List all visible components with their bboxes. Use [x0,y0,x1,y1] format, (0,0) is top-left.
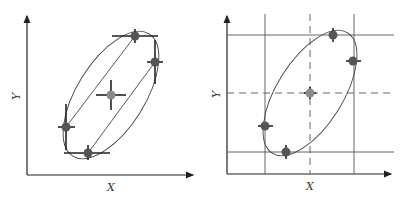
left-panel: X Y [10,16,193,194]
left-point-bottom [84,149,93,158]
right-point-left [261,122,270,131]
left-diagonal-right-bottom [88,62,155,153]
right-y-label: Y [210,89,223,98]
right-x-label: X [305,180,315,193]
left-point-left [62,123,71,132]
left-x-label: X [106,181,116,194]
right-point-bottom [282,148,291,157]
left-point-center [107,91,116,100]
diagram-canvas: X Y X Y [0,0,404,198]
left-point-top [131,32,140,41]
right-point-right [349,57,358,66]
left-y-label: Y [10,91,23,100]
left-diagonal-top-left [66,36,135,127]
right-point-center [306,89,315,98]
right-point-top [329,31,338,40]
left-point-right [151,58,160,67]
right-panel: X Y [210,14,394,193]
